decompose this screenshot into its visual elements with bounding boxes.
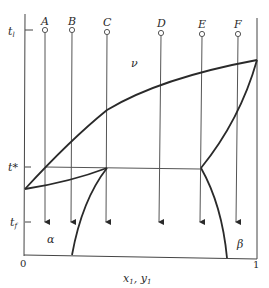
region-vapor: ν: [131, 57, 138, 70]
label-tl: tl: [8, 25, 15, 39]
label-F: F: [233, 18, 242, 31]
label-D: D: [156, 17, 166, 30]
label-A: A: [40, 15, 49, 28]
path-E: [199, 31, 204, 222]
label-B: B: [67, 15, 76, 28]
right-curve: [201, 60, 257, 168]
x-max-label: 1: [253, 259, 259, 270]
label-tstar: t*: [8, 161, 18, 174]
path-A: [42, 27, 47, 222]
eutectic-line: [45, 167, 200, 169]
x-axis-label: x1, y1: [123, 272, 151, 286]
cooling-paths: [42, 27, 240, 222]
beta-solvus: [201, 168, 227, 258]
region-alpha: α: [47, 233, 55, 246]
phase-boundaries: [25, 60, 257, 258]
alpha-solvus: [72, 168, 107, 255]
label-tf: tf: [10, 216, 18, 230]
region-beta: β: [236, 238, 243, 251]
label-C: C: [103, 16, 112, 29]
left-axis: [24, 14, 25, 256]
phase-diagram: tl t* tf A B C D E F ν α β 0 1 x1, y1: [0, 0, 269, 288]
path-B: [69, 27, 74, 222]
path-C: [104, 29, 109, 222]
upper-curve: [25, 60, 257, 189]
bottom-axis: [24, 255, 257, 259]
path-D: [158, 30, 163, 222]
x-min-label: 0: [20, 258, 26, 269]
path-F: [235, 31, 240, 222]
label-E: E: [197, 18, 206, 31]
